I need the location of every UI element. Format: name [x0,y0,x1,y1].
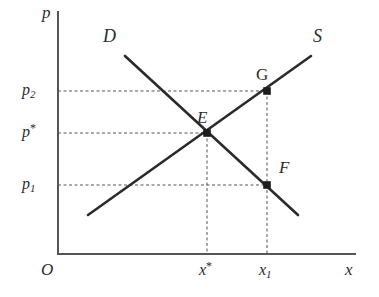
supply-demand-figure: p x O D S E G F p2 p* p1 x* x1 [0,0,379,297]
x-tick-x1-sub: 1 [266,268,272,280]
diagram-canvas [0,0,379,297]
y-axis-label: p [42,4,51,21]
point-marker-g [263,87,271,95]
y-tick-pstar-main: p [22,123,30,140]
x-axis-label: x [345,261,353,278]
point-label-g: G [256,66,268,83]
x-tick-label-xstar: x* [199,262,212,278]
y-tick-p1-sub: 1 [30,182,36,194]
point-label-f: F [279,159,289,176]
y-tick-p1-main: p [22,175,30,192]
point-label-e: E [197,109,207,126]
y-tick-pstar-sup: * [30,121,36,135]
y-tick-label-p2: p2 [22,82,36,98]
point-marker-f [263,181,271,189]
demand-curve [125,56,298,215]
y-tick-label-pstar: p* [22,124,36,140]
y-tick-p2-sub: 2 [30,88,36,100]
demand-curve-label: D [103,27,116,45]
origin-label: O [41,261,53,278]
y-tick-label-p1: p1 [22,176,36,192]
supply-curve [88,56,311,215]
point-marker-e [203,129,211,137]
x-tick-xstar-sup: * [206,259,212,273]
x-tick-label-x1: x1 [259,262,272,278]
supply-curve-label: S [313,27,322,45]
y-tick-p2-main: p [22,81,30,98]
